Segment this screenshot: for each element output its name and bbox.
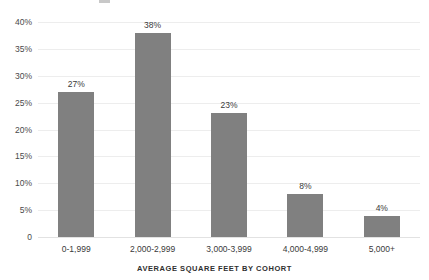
x-axis-tick-label: 2,000-2,999	[111, 243, 195, 255]
y-axis-tick-label: 0	[0, 233, 32, 242]
bar-group[interactable]: 27%	[58, 22, 94, 237]
plot-area: 27%38%23%8%4%	[38, 22, 420, 237]
x-axis: 0-1,9992,000-2,9993,000-3,9994,000-4,999…	[38, 243, 420, 257]
bar[interactable]	[364, 216, 400, 238]
y-axis: 05%10%15%20%25%30%35%40%	[0, 22, 32, 237]
bar[interactable]	[58, 92, 94, 237]
y-axis-tick-label: 25%	[0, 98, 32, 107]
y-axis-tick-label: 35%	[0, 44, 32, 53]
bar-group[interactable]: 38%	[135, 22, 171, 237]
bar-value-label: 8%	[275, 181, 335, 191]
bar-chart: 05%10%15%20%25%30%35%40% 27%38%23%8%4% 0…	[0, 0, 429, 280]
bar-value-label: 38%	[123, 20, 183, 30]
y-axis-tick-label: 40%	[0, 18, 32, 27]
cropped-title-artifact	[99, 0, 110, 3]
bar-group[interactable]: 23%	[211, 22, 247, 237]
x-axis-tick-label: 4,000-4,999	[263, 243, 347, 255]
gridline	[38, 237, 420, 238]
x-axis-tick-label: 0-1,999	[34, 243, 118, 255]
x-axis-tick-label: 5,000+	[340, 243, 424, 255]
bar-group[interactable]: 8%	[287, 22, 323, 237]
y-axis-tick-label: 10%	[0, 179, 32, 188]
bar[interactable]	[287, 194, 323, 237]
y-axis-tick-label: 30%	[0, 71, 32, 80]
y-axis-tick-label: 15%	[0, 152, 32, 161]
x-axis-title: AVERAGE SQUARE FEET BY COHORT	[0, 264, 429, 273]
bar[interactable]	[135, 33, 171, 237]
y-axis-tick-label: 20%	[0, 125, 32, 134]
bar-group[interactable]: 4%	[364, 22, 400, 237]
y-axis-tick-label: 5%	[0, 206, 32, 215]
bar-value-label: 23%	[199, 100, 259, 110]
bar-value-label: 27%	[46, 79, 106, 89]
bar-value-label: 4%	[352, 203, 412, 213]
x-axis-tick-label: 3,000-3,999	[187, 243, 271, 255]
bar[interactable]	[211, 113, 247, 237]
